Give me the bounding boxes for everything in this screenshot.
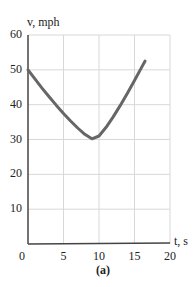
chart-plot [0,0,196,287]
x-tick-label: 10 [89,249,109,264]
y-axis-label: v, mph [27,15,60,30]
y-tick-label: 50 [0,62,22,77]
y-tick-label: 30 [0,132,22,147]
x-tick-label: 0 [12,249,32,264]
y-tick-label: 60 [0,27,22,42]
x-tick-label: 20 [160,249,180,264]
x-axis-label: t, s [174,234,188,249]
y-tick-label: 40 [0,97,22,112]
x-tick-label: 15 [125,249,145,264]
y-tick-label: 20 [0,166,22,181]
grid-lines [28,35,170,244]
x-axis [28,243,170,244]
x-tick-label: 5 [54,249,74,264]
y-tick-label: 10 [0,201,22,216]
figure-caption: (a) [96,263,110,278]
velocity-curve [28,61,145,139]
